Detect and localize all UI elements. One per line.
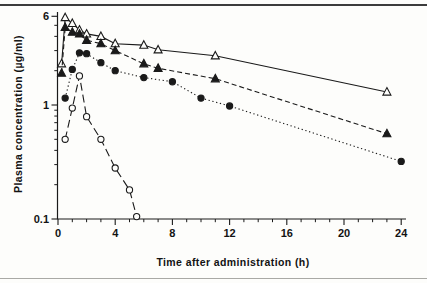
triangle-open-marker [61, 13, 69, 21]
series-line-dashed [62, 27, 387, 133]
circle-filled-marker [227, 103, 233, 109]
series-line-longdash [65, 76, 137, 217]
y-axis-title: Plasma concentration (µg/ml) [12, 35, 24, 193]
triangle-filled-marker [68, 28, 76, 36]
x-tick-label: 20 [338, 227, 350, 239]
circle-open-marker [69, 105, 75, 111]
circle-open-marker [62, 136, 68, 142]
circle-filled-marker [69, 66, 75, 72]
series-filled-circle-formulation [62, 50, 404, 165]
circle-open-marker [126, 187, 132, 193]
series-line-solid [62, 18, 387, 93]
x-tick-label: 8 [169, 227, 175, 239]
circle-filled-marker [141, 74, 147, 80]
circle-open-marker [112, 165, 118, 171]
circle-filled-marker [84, 51, 90, 57]
circle-open-marker [76, 73, 82, 79]
circle-filled-marker [62, 95, 68, 101]
figure-page: 04812162024610.1 Plasma concentration (µ… [0, 0, 427, 283]
plasma-concentration-chart: 04812162024610.1 [0, 0, 427, 283]
circle-open-marker [84, 114, 90, 120]
circle-open-marker [134, 213, 140, 219]
x-tick-label: 12 [223, 227, 235, 239]
y-tick-label: 0.1 [34, 213, 49, 225]
triangle-open-marker [68, 19, 76, 27]
triangle-open-marker [58, 59, 66, 67]
bottom-rule [0, 278, 427, 279]
circle-filled-marker [98, 60, 104, 66]
circle-open-marker [98, 136, 104, 142]
x-axis-title: Time after administration (h) [156, 256, 309, 268]
circle-filled-marker [169, 79, 175, 85]
y-tick-label: 1 [43, 99, 49, 111]
x-tick-label: 4 [112, 227, 119, 239]
y-tick-label: 6 [43, 10, 49, 22]
x-tick-label: 24 [395, 227, 408, 239]
circle-filled-marker [76, 50, 82, 56]
circle-filled-marker [198, 95, 204, 101]
triangle-filled-marker [58, 69, 66, 77]
x-tick-label: 0 [55, 227, 61, 239]
circle-filled-marker [112, 68, 118, 74]
circle-filled-marker [398, 158, 404, 164]
series-open-triangle-formulation [58, 13, 391, 95]
series-open-circle-formulation [62, 73, 140, 220]
x-tick-label: 16 [281, 227, 293, 239]
